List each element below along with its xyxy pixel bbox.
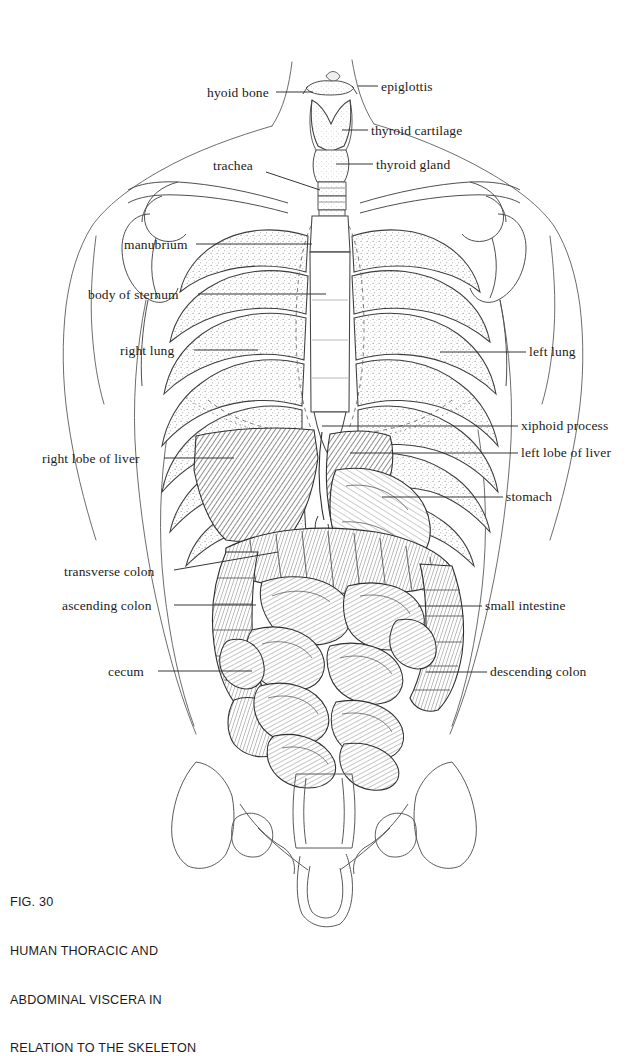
label-cecum: cecum: [108, 665, 144, 679]
label-manubrium: manubrium: [124, 238, 188, 252]
caption-line-4: RELATION TO THE SKELETON: [10, 1040, 196, 1056]
figure-caption: FIG. 30 HUMAN THORACIC AND ABDOMINAL VIS…: [10, 862, 196, 1056]
label-stomach: stomach: [506, 490, 552, 504]
label-ascending-colon: ascending colon: [62, 599, 152, 613]
body-of-sternum: [310, 252, 350, 412]
label-right-lobe-of-liver: right lobe of liver: [42, 452, 140, 466]
label-hyoid-bone: hyoid bone: [207, 86, 269, 100]
label-left-lobe-of-liver: left lobe of liver: [521, 446, 611, 460]
caption-line-2: HUMAN THORACIC AND: [10, 943, 196, 959]
label-epiglottis: epiglottis: [381, 80, 433, 94]
label-right-lung: right lung: [120, 344, 174, 358]
label-xiphoid-process: xiphoid process: [521, 419, 608, 433]
hyoid-bone: [303, 81, 357, 95]
caption-line-3: ABDOMINAL VISCERA IN: [10, 992, 196, 1008]
label-trachea: trachea: [213, 159, 253, 173]
pelvis-group: [172, 762, 477, 927]
label-left-lung: left lung: [529, 345, 576, 359]
label-descending-colon: descending colon: [490, 665, 587, 679]
thyroid-cartilage: [310, 100, 352, 152]
larynx-trachea-group: [303, 72, 357, 239]
epiglottis: [326, 72, 340, 81]
label-thyroid-gland: thyroid gland: [376, 158, 450, 172]
caption-line-1: FIG. 30: [10, 894, 196, 910]
manubrium: [310, 216, 350, 252]
label-thyroid-cartilage: thyroid cartilage: [371, 124, 462, 138]
label-transverse-colon: transverse colon: [64, 565, 155, 579]
sternum-group: [310, 216, 350, 458]
label-small-intestine: small intestine: [485, 599, 566, 613]
thyroid-gland: [313, 150, 349, 182]
label-body-of-sternum: body of sternum: [88, 288, 179, 302]
